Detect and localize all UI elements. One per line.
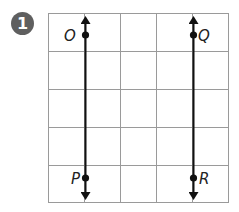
point-P: [82, 174, 89, 181]
point-Q: [190, 31, 197, 38]
parallel-lines-diagram: O P Q R: [0, 0, 239, 212]
point-O: [82, 31, 89, 38]
label-P: P: [71, 170, 81, 188]
label-R: R: [199, 170, 209, 188]
label-O: O: [64, 27, 76, 45]
label-Q: Q: [198, 27, 210, 45]
point-R: [190, 174, 197, 181]
